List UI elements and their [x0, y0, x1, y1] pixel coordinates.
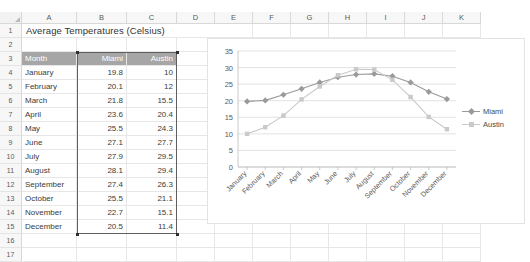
cell-month[interactable]: January: [22, 66, 77, 80]
cell-month[interactable]: November: [22, 206, 77, 220]
row-header-17[interactable]: 17: [0, 248, 22, 262]
cell-empty[interactable]: [443, 248, 481, 262]
column-header-c[interactable]: C: [127, 12, 177, 24]
cell-empty[interactable]: [405, 234, 443, 248]
cell-empty[interactable]: [77, 234, 127, 248]
cell-empty[interactable]: [329, 248, 367, 262]
row-header-13[interactable]: 13: [0, 192, 22, 206]
table-header-austin[interactable]: Austin: [127, 52, 177, 66]
cell-austin[interactable]: 21.1: [127, 192, 177, 206]
cell-miami[interactable]: 22.7: [77, 206, 127, 220]
cell-miami[interactable]: 28.1: [77, 164, 127, 178]
select-all-corner[interactable]: [0, 12, 22, 24]
cell-empty[interactable]: [405, 248, 443, 262]
cell-miami[interactable]: 20.1: [77, 80, 127, 94]
cell-month[interactable]: June: [22, 136, 77, 150]
cell-month[interactable]: August: [22, 164, 77, 178]
cell-empty[interactable]: [291, 234, 329, 248]
row-header-4[interactable]: 4: [0, 66, 22, 80]
cell-empty[interactable]: [291, 24, 329, 38]
row-header-8[interactable]: 8: [0, 122, 22, 136]
cell-month[interactable]: December: [22, 220, 77, 234]
cell-empty[interactable]: [367, 234, 405, 248]
cell-austin[interactable]: 10: [127, 66, 177, 80]
cell-austin[interactable]: 15.5: [127, 94, 177, 108]
line-chart[interactable]: 05101520253035JanuaryFebruaryMarchAprilM…: [207, 38, 525, 224]
cell-austin[interactable]: 12: [127, 80, 177, 94]
cell-empty[interactable]: [443, 234, 481, 248]
cell-month[interactable]: October: [22, 192, 77, 206]
cell-month[interactable]: April: [22, 108, 77, 122]
cell-empty[interactable]: [22, 234, 77, 248]
column-header-k[interactable]: K: [443, 12, 481, 24]
cell-empty[interactable]: [127, 234, 177, 248]
cell-empty[interactable]: [127, 38, 177, 52]
row-header-3[interactable]: 3: [0, 52, 22, 66]
cell-empty[interactable]: [215, 234, 253, 248]
row-header-7[interactable]: 7: [0, 108, 22, 122]
cell-austin[interactable]: 27.7: [127, 136, 177, 150]
cell-austin[interactable]: 11.4: [127, 220, 177, 234]
row-header-12[interactable]: 12: [0, 178, 22, 192]
cell-miami[interactable]: 27.4: [77, 178, 127, 192]
cell-empty[interactable]: [405, 24, 443, 38]
cell-empty[interactable]: [291, 248, 329, 262]
cell-miami[interactable]: 21.8: [77, 94, 127, 108]
cell-empty[interactable]: [22, 38, 77, 52]
cell-empty[interactable]: [253, 248, 291, 262]
cell-empty[interactable]: [22, 248, 77, 262]
row-header-10[interactable]: 10: [0, 150, 22, 164]
cell-miami[interactable]: 25.5: [77, 192, 127, 206]
column-header-f[interactable]: F: [253, 12, 291, 24]
cell-empty[interactable]: [77, 248, 127, 262]
cell-month[interactable]: March: [22, 94, 77, 108]
cell-month[interactable]: May: [22, 122, 77, 136]
column-header-b[interactable]: B: [77, 12, 127, 24]
cell-empty[interactable]: [127, 248, 177, 262]
cell-austin[interactable]: 29.5: [127, 150, 177, 164]
cell-miami[interactable]: 23.6: [77, 108, 127, 122]
cell-austin[interactable]: 20.4: [127, 108, 177, 122]
cell-month[interactable]: February: [22, 80, 77, 94]
cell-empty[interactable]: [253, 234, 291, 248]
column-header-h[interactable]: H: [329, 12, 367, 24]
cell-empty[interactable]: [329, 24, 367, 38]
cell-empty[interactable]: [367, 24, 405, 38]
cell-month[interactable]: July: [22, 150, 77, 164]
cell-empty[interactable]: [443, 24, 481, 38]
cell-miami[interactable]: 27.9: [77, 150, 127, 164]
cell-empty[interactable]: [177, 234, 215, 248]
row-header-11[interactable]: 11: [0, 164, 22, 178]
cell-empty[interactable]: [77, 38, 127, 52]
column-header-e[interactable]: E: [215, 12, 253, 24]
cell-austin[interactable]: 24.3: [127, 122, 177, 136]
row-header-16[interactable]: 16: [0, 234, 22, 248]
column-header-d[interactable]: D: [177, 12, 215, 24]
cell-austin[interactable]: 15.1: [127, 206, 177, 220]
cell-empty[interactable]: [329, 234, 367, 248]
cell-empty[interactable]: [367, 248, 405, 262]
cell-empty[interactable]: [215, 248, 253, 262]
column-header-j[interactable]: J: [405, 12, 443, 24]
cell-empty[interactable]: [215, 24, 253, 38]
row-header-1[interactable]: 1: [0, 24, 22, 38]
column-header-g[interactable]: G: [291, 12, 329, 24]
cell-miami[interactable]: 19.8: [77, 66, 127, 80]
row-header-14[interactable]: 14: [0, 206, 22, 220]
cell-austin[interactable]: 26.3: [127, 178, 177, 192]
table-header-month[interactable]: Month: [22, 52, 77, 66]
table-header-miami[interactable]: Miami: [77, 52, 127, 66]
row-header-2[interactable]: 2: [0, 38, 22, 52]
row-header-15[interactable]: 15: [0, 220, 22, 234]
column-header-a[interactable]: A: [22, 12, 77, 24]
cell-miami[interactable]: 25.5: [77, 122, 127, 136]
cell-miami[interactable]: 20.5: [77, 220, 127, 234]
row-header-9[interactable]: 9: [0, 136, 22, 150]
cell-austin[interactable]: 29.4: [127, 164, 177, 178]
row-header-5[interactable]: 5: [0, 80, 22, 94]
cell-empty[interactable]: [253, 24, 291, 38]
column-header-i[interactable]: I: [367, 12, 405, 24]
cell-miami[interactable]: 27.1: [77, 136, 127, 150]
row-header-6[interactable]: 6: [0, 94, 22, 108]
cell-empty[interactable]: [177, 248, 215, 262]
